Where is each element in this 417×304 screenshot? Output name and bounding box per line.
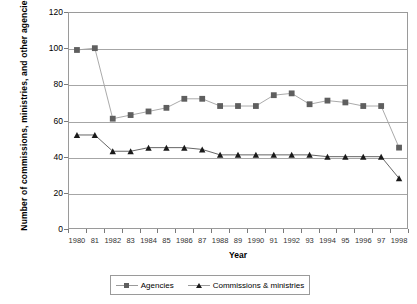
x-tick-label: 93 bbox=[305, 236, 313, 245]
x-tick-mark bbox=[104, 229, 105, 233]
gridline bbox=[69, 158, 407, 159]
x-tick-mark bbox=[301, 229, 302, 233]
y-tick-mark bbox=[64, 121, 68, 122]
y-tick-label: 80 bbox=[29, 79, 63, 89]
x-tick-mark bbox=[408, 229, 409, 233]
x-tick-label: 1984 bbox=[140, 236, 157, 245]
x-tick-label: 87 bbox=[198, 236, 206, 245]
x-tick-label: 1988 bbox=[212, 236, 229, 245]
x-tick-mark bbox=[157, 229, 158, 233]
x-tick-mark bbox=[193, 229, 194, 233]
y-tick-mark bbox=[64, 193, 68, 194]
x-tick-mark bbox=[265, 229, 266, 233]
y-tick-mark bbox=[64, 84, 68, 85]
square-marker-icon bbox=[116, 281, 138, 290]
x-tick-label: 91 bbox=[270, 236, 278, 245]
x-tick-label: 1982 bbox=[104, 236, 121, 245]
gridline bbox=[69, 122, 407, 123]
y-tick-label: 60 bbox=[29, 116, 63, 126]
x-tick-mark bbox=[86, 229, 87, 233]
y-axis-title: Number of commissions, ministries, and o… bbox=[19, 0, 29, 233]
legend-item-commissions: Commissions & ministries bbox=[188, 281, 305, 290]
x-tick-label: 97 bbox=[377, 236, 385, 245]
x-tick-mark bbox=[175, 229, 176, 233]
y-tick-label: 20 bbox=[29, 188, 63, 198]
x-tick-mark bbox=[319, 229, 320, 233]
x-tick-label: 89 bbox=[234, 236, 242, 245]
x-tick-label: 95 bbox=[341, 236, 349, 245]
x-tick-label: 1992 bbox=[283, 236, 300, 245]
x-tick-mark bbox=[68, 229, 69, 233]
x-axis-title: Year bbox=[68, 250, 408, 260]
x-tick-mark bbox=[122, 229, 123, 233]
chart-container: Number of commissions, ministries, and o… bbox=[0, 0, 417, 304]
x-tick-label: 1998 bbox=[391, 236, 408, 245]
x-tick-mark bbox=[247, 229, 248, 233]
y-tick-label: 0 bbox=[29, 224, 63, 234]
chart-legend: Agencies Commissions & ministries bbox=[110, 275, 310, 295]
y-tick-label: 40 bbox=[29, 152, 63, 162]
gridline bbox=[69, 194, 407, 195]
x-tick-mark bbox=[336, 229, 337, 233]
x-tick-mark bbox=[211, 229, 212, 233]
gridline bbox=[69, 49, 407, 50]
y-tick-mark bbox=[64, 12, 68, 13]
y-tick-label: 120 bbox=[29, 7, 63, 17]
triangle-marker-icon bbox=[188, 281, 210, 290]
y-tick-mark bbox=[64, 48, 68, 49]
x-tick-label: 1986 bbox=[176, 236, 193, 245]
plot-area bbox=[68, 12, 408, 229]
x-tick-mark bbox=[140, 229, 141, 233]
x-tick-label: 85 bbox=[162, 236, 170, 245]
y-tick-mark bbox=[64, 157, 68, 158]
legend-label-agencies: Agencies bbox=[141, 281, 174, 290]
x-tick-label: 81 bbox=[91, 236, 99, 245]
x-tick-label: 1994 bbox=[319, 236, 336, 245]
x-tick-mark bbox=[390, 229, 391, 233]
legend-label-commissions: Commissions & ministries bbox=[213, 281, 305, 290]
x-tick-label: 1980 bbox=[69, 236, 86, 245]
x-tick-label: 1990 bbox=[248, 236, 265, 245]
y-tick-label: 100 bbox=[29, 43, 63, 53]
x-tick-mark bbox=[354, 229, 355, 233]
legend-item-agencies: Agencies bbox=[116, 281, 174, 290]
x-tick-label: 83 bbox=[126, 236, 134, 245]
x-tick-mark bbox=[283, 229, 284, 233]
x-tick-mark bbox=[229, 229, 230, 233]
x-tick-mark bbox=[372, 229, 373, 233]
gridline bbox=[69, 85, 407, 86]
x-tick-label: 1996 bbox=[355, 236, 372, 245]
